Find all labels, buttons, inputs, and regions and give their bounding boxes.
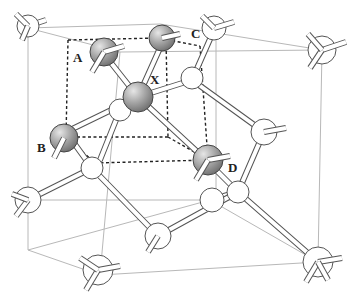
atom-bottom-mid [145, 223, 171, 252]
atom-upper-mid [181, 67, 203, 89]
atom-center-lower [81, 157, 103, 179]
atom-X [123, 82, 153, 112]
label-B: B [37, 140, 46, 156]
atom-right-face [251, 119, 286, 145]
atom-C [149, 25, 180, 51]
atom-top-back [202, 16, 234, 40]
label-X: X [150, 72, 159, 88]
crystal-lattice-diagram [0, 0, 356, 304]
atom-B [50, 124, 78, 158]
label-C: C [191, 26, 200, 42]
label-A: A [73, 50, 82, 66]
label-D: D [228, 160, 237, 176]
atom-bottom-right-corner [303, 247, 342, 282]
atom-top-left-corner [16, 14, 46, 40]
atom-bottom-front [80, 255, 120, 290]
atom-left-face [12, 187, 41, 216]
atom-top-right-corner [308, 34, 346, 68]
